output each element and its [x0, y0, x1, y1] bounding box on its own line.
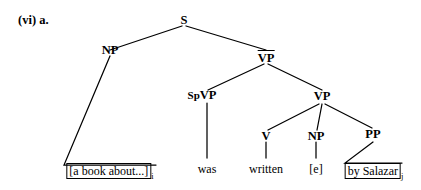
branch-vp-pp — [325, 104, 372, 128]
node-v: V — [261, 130, 270, 143]
terminal-subject-phrase-subscript: i — [151, 171, 153, 181]
branch-s-vpbar — [186, 26, 266, 50]
terminal-agent-phrase-subscript: j — [401, 171, 403, 181]
branch-vp-np — [317, 104, 322, 130]
node-np-trace: NP — [308, 130, 325, 143]
node-vp-bar: VP — [258, 50, 275, 64]
node-spec-vp: SpVP — [188, 89, 217, 102]
terminal-aux: was — [198, 163, 217, 175]
terminal-subject-phrase: [a book about...]i — [66, 162, 153, 181]
branch-vpbar-vp — [268, 64, 322, 90]
spec-marker-label: Sp — [188, 89, 200, 101]
branch-vpbar-spvp — [208, 64, 264, 90]
node-pp: PP — [365, 128, 380, 141]
figure-canvas: (vi) a. — [0, 0, 421, 190]
node-s: S — [181, 14, 188, 27]
triangle-np-subject — [64, 56, 156, 165]
branch-vp-v — [268, 104, 319, 130]
terminal-participle: written — [249, 163, 283, 175]
terminal-empty-category: [e] — [309, 163, 322, 175]
node-vp-right: VP — [314, 90, 331, 103]
triangle-pp — [345, 142, 402, 163]
terminal-subject-phrase-text: [a book about...] — [66, 163, 151, 179]
node-vp-spec: VP — [200, 88, 217, 102]
node-np-subject: NP — [102, 44, 119, 57]
branch-s-np — [110, 26, 182, 50]
terminal-agent-phrase: by Salazarj — [345, 162, 404, 181]
terminal-agent-phrase-text: by Salazar — [345, 163, 401, 179]
